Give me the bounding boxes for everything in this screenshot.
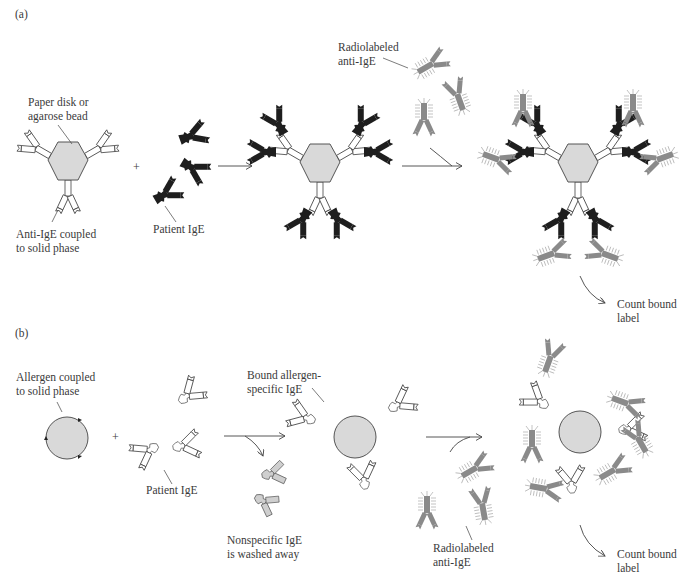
bound-allergen-label: Bound allergen- specific IgE <box>247 368 321 396</box>
nonspecific-ige-washed <box>249 460 287 519</box>
panel-b-label: (b) <box>15 327 28 339</box>
count-bound-label-a: Count bound label <box>617 297 677 325</box>
anti-ige-coupled-label: Anti-IgE coupled to solid phase <box>16 227 96 255</box>
solid-phase-bead-a2 <box>247 102 393 242</box>
radiolabeled-label-a: Radiolabeled anti-IgE <box>338 40 399 68</box>
diagram-canvas <box>0 0 694 583</box>
radiolabeled-label-b: Radiolabeled anti-IgE <box>433 541 494 569</box>
nonspecific-washed-label: Nonspecific IgE is washed away <box>227 533 302 561</box>
allergen-bead-b3 <box>516 337 658 503</box>
patient-ige-label-a: Patient IgE <box>153 222 204 236</box>
allergen-bead-b1 <box>44 417 88 459</box>
allergen-coupled-label: Allergen coupled to solid phase <box>16 370 95 398</box>
allergen-bead-b2 <box>284 383 421 492</box>
solid-phase-bead-a3 <box>474 89 681 271</box>
count-bound-label-b: Count bound label <box>617 547 677 575</box>
solid-phase-label-a: Paper disk or agarose bead <box>28 95 89 123</box>
plus-sign-b: + <box>112 430 119 444</box>
radiolabeled-anti-ige-free-a <box>408 45 476 136</box>
patient-ige-black-free <box>148 118 213 212</box>
panel-a-label: (a) <box>15 8 28 20</box>
patient-ige-outline-free <box>126 373 210 472</box>
radiolabeled-anti-ige-free-b <box>416 449 498 529</box>
patient-ige-label-b: Patient IgE <box>146 483 197 497</box>
plus-sign-a: + <box>133 160 140 174</box>
solid-phase-bead-a1 <box>15 129 121 214</box>
